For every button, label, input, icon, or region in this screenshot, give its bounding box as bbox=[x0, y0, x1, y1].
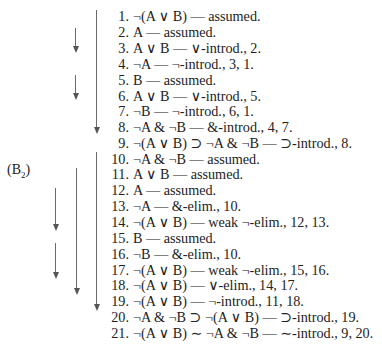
scope-line-2-3 bbox=[75, 28, 76, 48]
natural-deduction-proof: (B2) 1.¬(A ∨ B) — assumed. 2.A — assumed… bbox=[0, 0, 382, 348]
arrowhead-icon bbox=[74, 288, 80, 295]
arrowhead-icon bbox=[53, 224, 59, 231]
scope-line-5-6 bbox=[75, 75, 76, 95]
arrowhead-icon bbox=[94, 127, 100, 134]
arrowhead-icon bbox=[73, 46, 79, 53]
scope-line-1-9 bbox=[96, 10, 97, 130]
scope-line-10-19 bbox=[96, 152, 97, 307]
scope-line-12-14 bbox=[55, 188, 56, 226]
scope-line-15-17 bbox=[55, 243, 56, 275]
proof-label-b2: (B2) bbox=[7, 162, 30, 183]
arrowhead-icon bbox=[73, 93, 79, 100]
scope-line-11-18 bbox=[76, 168, 77, 291]
arrowhead-icon bbox=[53, 272, 59, 279]
arrowhead-icon bbox=[94, 304, 100, 311]
